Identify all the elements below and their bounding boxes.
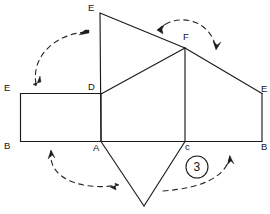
- geometry-figure: E F D E E B A c B 3: [0, 0, 270, 214]
- solid-edges-group: [21, 13, 263, 206]
- label-a: A: [93, 143, 99, 153]
- arc-lower-left: [51, 151, 118, 187]
- arc-upper-left: [35, 32, 88, 84]
- label-c: c: [185, 142, 190, 152]
- label-b-right: B: [261, 142, 267, 152]
- arrowhead-lower-right-end: [227, 156, 234, 165]
- arrowhead-lower-left-end: [110, 183, 119, 190]
- label-f: F: [183, 32, 189, 42]
- edge-d-to-f: [101, 48, 185, 94]
- label-d: D: [88, 82, 95, 92]
- edge-apex-to-c: [144, 142, 185, 207]
- edge-e-top-to-f: [100, 13, 185, 48]
- label-e-right: E: [261, 84, 267, 94]
- dashed-rotation-arcs-group: [35, 20, 230, 191]
- arrowhead-upper-left-start: [33, 76, 41, 86]
- arrow-heads-group: [33, 24, 234, 190]
- label-e-top: E: [88, 3, 94, 13]
- edge-e-top-to-a: [100, 13, 101, 142]
- edge-a-to-apex: [101, 142, 144, 207]
- label-b-left: B: [4, 141, 10, 151]
- edge-f-to-e-right: [185, 48, 262, 94]
- label-e-left: E: [4, 83, 10, 93]
- arrowhead-lower-left-start: [48, 150, 55, 159]
- arrowhead-upper-right-start: [157, 24, 165, 34]
- figure-canvas: [0, 0, 270, 214]
- step-badge-number: 3: [194, 161, 201, 173]
- arrowhead-upper-right-end: [213, 41, 221, 50]
